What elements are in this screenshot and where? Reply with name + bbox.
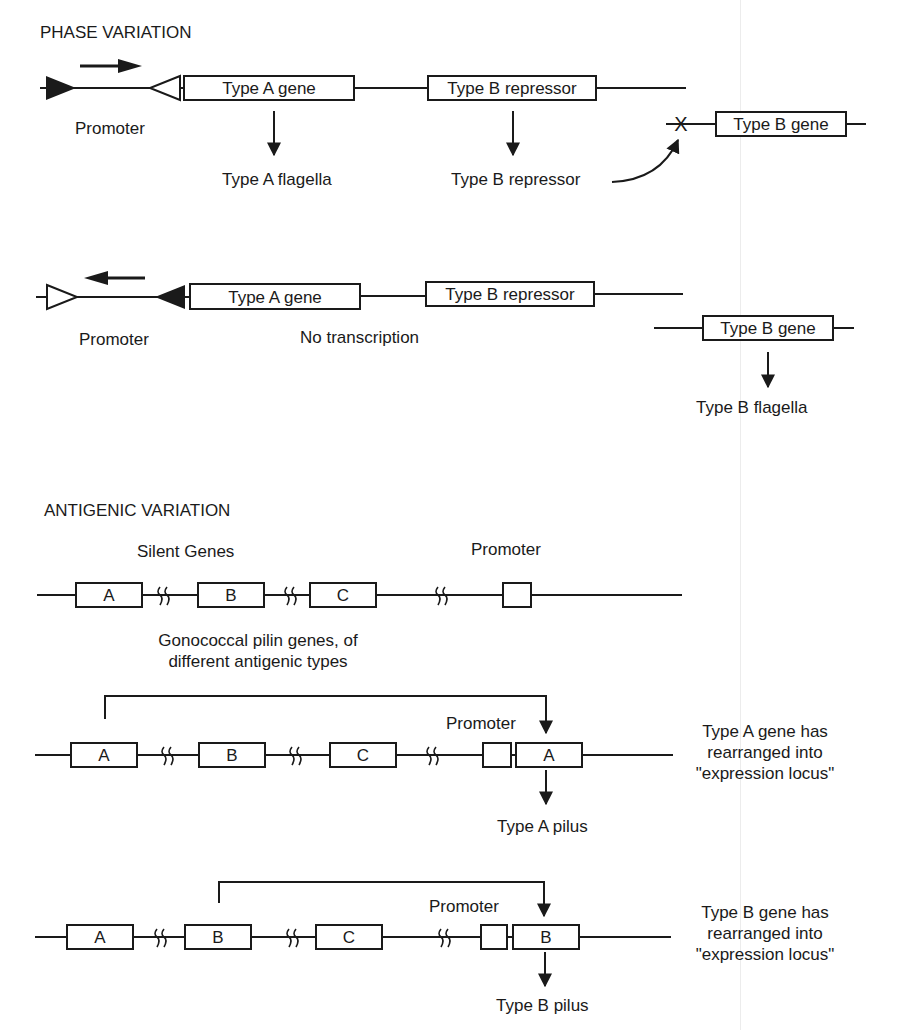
inverted-repeat-filled-icon xyxy=(46,76,76,100)
svg-text:C: C xyxy=(337,586,349,605)
svg-text:C: C xyxy=(357,746,369,765)
type-b-pilus-label: Type B pilus xyxy=(496,996,589,1015)
svg-text:A: A xyxy=(103,586,115,605)
inverted-repeat-open-icon xyxy=(150,76,180,100)
transcription-direction-right-icon xyxy=(118,59,142,73)
repression-curved-arrow xyxy=(612,140,678,182)
type-a-flagella-label: Type A flagella xyxy=(222,170,332,189)
type-b-repressor-label-off: Type B repressor xyxy=(445,285,575,304)
promoter-label-on: Promoter xyxy=(75,119,145,138)
svg-text:C: C xyxy=(343,928,355,947)
promoter-label-silent: Promoter xyxy=(471,540,541,559)
silent-locus: A B C xyxy=(37,583,682,607)
note-b-line3: "expression locus" xyxy=(696,945,835,964)
note-b-line1: Type B gene has xyxy=(701,903,829,922)
transcription-direction-left-icon xyxy=(84,271,108,285)
note-a-line1: Type A gene has xyxy=(702,722,828,741)
promoter-label-b: Promoter xyxy=(429,897,499,916)
type-b-repressor-product-label: Type B repressor xyxy=(451,170,581,189)
svg-text:A: A xyxy=(98,746,110,765)
expressed-gene-a: A xyxy=(543,746,555,765)
note-a-line2: rearranged into xyxy=(707,743,822,762)
note-a-line3: "expression locus" xyxy=(696,764,835,783)
caption-line2: different antigenic types xyxy=(168,652,347,671)
type-a-gene-label: Type A gene xyxy=(222,79,316,98)
blocked-x-icon: X xyxy=(674,113,687,135)
promoter-box xyxy=(503,583,531,607)
inverted-repeat-filled-icon xyxy=(155,285,185,309)
type-b-flagella-label: Type B flagella xyxy=(696,398,808,417)
type-b-repressor-label: Type B repressor xyxy=(447,79,577,98)
type-b-gene-label-off: Type B gene xyxy=(720,319,815,338)
type-b-gene-repressed: X Type B gene xyxy=(666,112,866,136)
svg-text:A: A xyxy=(94,928,106,947)
svg-text:B: B xyxy=(226,746,237,765)
type-b-gene-active: Type B gene xyxy=(654,316,854,340)
diagram-canvas: PHASE VARIATION Type A gene Type B repre… xyxy=(0,0,898,1030)
expressed-gene-b: B xyxy=(540,928,551,947)
svg-text:B: B xyxy=(212,928,223,947)
type-b-gene-label-on: Type B gene xyxy=(733,115,828,134)
note-b-line2: rearranged into xyxy=(707,924,822,943)
no-transcription-label: No transcription xyxy=(300,328,419,347)
type-a-pilus-label: Type A pilus xyxy=(497,817,588,836)
phase-off-construct: Type A gene Type B repressor xyxy=(36,271,683,309)
caption-line1: Gonococcal pilin genes, of xyxy=(158,631,358,650)
antigenic-variation-title: ANTIGENIC VARIATION xyxy=(44,501,230,520)
type-a-gene-label-off: Type A gene xyxy=(228,288,322,307)
phase-variation-title: PHASE VARIATION xyxy=(40,23,191,42)
phase-on-construct: Type A gene Type B repressor xyxy=(40,59,686,100)
expression-locus-b: A B C B xyxy=(35,925,671,949)
promoter-label-off: Promoter xyxy=(79,330,149,349)
promoter-label-a: Promoter xyxy=(446,714,516,733)
svg-text:B: B xyxy=(225,586,236,605)
expression-locus-a: A B C A xyxy=(35,743,673,767)
inverted-repeat-open-icon xyxy=(47,285,77,309)
silent-genes-label: Silent Genes xyxy=(137,542,234,561)
